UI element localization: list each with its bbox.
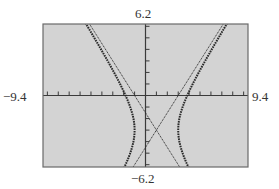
y-min-label: −6.2 [131, 172, 155, 185]
x-max-label: 9.4 [252, 90, 268, 103]
graph-screen [0, 0, 279, 189]
y-max-label: 6.2 [135, 7, 151, 20]
x-min-label: −9.4 [3, 90, 27, 103]
